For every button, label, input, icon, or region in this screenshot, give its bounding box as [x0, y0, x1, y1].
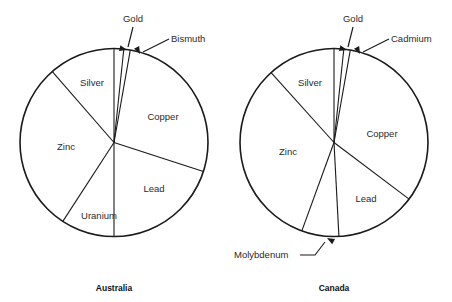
callout-label-australia-gold: Gold: [123, 13, 143, 24]
callout-leader-canada-cadmium: [363, 39, 389, 52]
chart-title-australia: Australia: [96, 283, 133, 293]
pie-chart-canvas: GoldBismuthCopperLeadUraniumZincSilverAu…: [0, 0, 452, 302]
slice-label-canada-silver: Silver: [298, 77, 322, 88]
pie-spoke-canada-lead: [334, 143, 409, 200]
callout-label-australia-bismuth: Bismuth: [171, 33, 205, 44]
slice-label-canada-lead: Lead: [355, 193, 376, 204]
slice-label-australia-lead: Lead: [143, 183, 164, 194]
slice-label-australia-silver: Silver: [80, 77, 104, 88]
callout-arrow-canada-cadmium: [354, 46, 360, 54]
callout-arrow-canada-gold: [339, 45, 347, 51]
callout-arrow-australia-gold: [119, 45, 127, 51]
callout-label-canada-molybdenum: Molybdenum: [234, 249, 288, 260]
callout-label-canada-cadmium: Cadmium: [391, 33, 432, 44]
pie-chart-figure: GoldBismuthCopperLeadUraniumZincSilverAu…: [0, 0, 452, 302]
slice-label-canada-zinc: Zinc: [279, 146, 297, 157]
callout-label-canada-gold: Gold: [343, 13, 363, 24]
chart-title-canada: Canada: [319, 283, 350, 293]
callout-arrow-canada-molybdenum: [327, 238, 335, 244]
callout-leader-australia-bismuth: [143, 39, 169, 52]
slice-label-australia-copper: Copper: [147, 111, 178, 122]
callout-leader-australia-gold: [128, 27, 133, 47]
callout-arrow-australia-bismuth: [134, 46, 140, 54]
slice-label-australia-uranium: Uranium: [81, 210, 117, 221]
slice-label-australia-zinc: Zinc: [57, 141, 75, 152]
callout-leader-canada-gold: [348, 27, 353, 47]
pie-australia: GoldBismuthCopperLeadUraniumZincSilverAu…: [20, 13, 208, 293]
pie-spoke-canada-zinc: [302, 143, 334, 231]
callout-leader-canada-molybdenum: [300, 242, 325, 255]
pie-spoke-australia-lead: [114, 143, 203, 172]
pie-canada: GoldCadmiumCopperLeadMolybdenumZincSilve…: [234, 13, 432, 293]
slice-label-canada-copper: Copper: [366, 128, 397, 139]
pie-spoke-canada-molybdenum: [334, 143, 339, 237]
